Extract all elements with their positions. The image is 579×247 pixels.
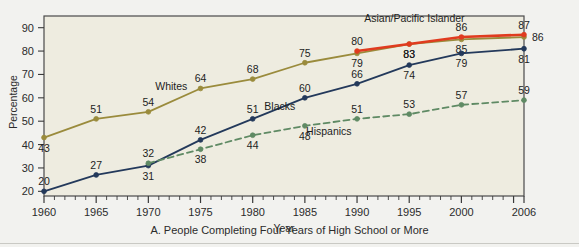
data-point bbox=[522, 32, 527, 37]
data-point-label: 60 bbox=[299, 82, 311, 94]
data-point-label: 20 bbox=[38, 175, 50, 187]
data-point-label: 42 bbox=[195, 124, 207, 136]
data-point-label: 51 bbox=[351, 103, 363, 115]
data-point-label: 59 bbox=[518, 84, 530, 96]
x-tick-label: 1990 bbox=[345, 206, 369, 218]
figure-panel: Percentage 20304050607080901960196519701… bbox=[0, 0, 579, 247]
data-point bbox=[355, 81, 360, 86]
x-tick-label: 1975 bbox=[188, 206, 212, 218]
data-point bbox=[459, 51, 464, 56]
data-point bbox=[94, 116, 99, 121]
data-point-label: 80 bbox=[351, 35, 363, 47]
y-tick-label: 90 bbox=[22, 22, 34, 34]
data-point bbox=[522, 98, 527, 103]
data-point-label: 53 bbox=[403, 98, 415, 110]
data-point bbox=[198, 147, 203, 152]
data-point bbox=[459, 35, 464, 40]
data-point bbox=[250, 133, 255, 138]
data-point-label: 54 bbox=[143, 96, 155, 108]
data-point bbox=[42, 135, 47, 140]
series-label-blacks: Blacks bbox=[264, 100, 295, 112]
line-chart: 2030405060708090196019651970197519801985… bbox=[0, 0, 579, 247]
data-point bbox=[250, 77, 255, 82]
x-tick-label: 1985 bbox=[293, 206, 317, 218]
y-tick-label: 40 bbox=[22, 139, 34, 151]
data-point bbox=[355, 116, 360, 121]
y-tick-label: 60 bbox=[22, 92, 34, 104]
data-point-label: 66 bbox=[351, 68, 363, 80]
x-tick-label: 1980 bbox=[240, 206, 264, 218]
data-point-label: 51 bbox=[90, 103, 102, 115]
data-point-label: 87 bbox=[518, 19, 530, 31]
x-tick-label: 1960 bbox=[32, 206, 56, 218]
y-tick-label: 80 bbox=[22, 45, 34, 57]
figure-caption: A. People Completing Four Years of High … bbox=[0, 224, 579, 236]
data-point-label: 27 bbox=[90, 159, 102, 171]
x-tick-label: 1970 bbox=[136, 206, 160, 218]
x-tick-label: 1995 bbox=[397, 206, 421, 218]
data-point bbox=[198, 86, 203, 91]
bottom-divider bbox=[0, 243, 579, 244]
data-point bbox=[250, 116, 255, 121]
data-point bbox=[42, 189, 47, 194]
y-tick-label: 70 bbox=[22, 68, 34, 80]
data-point-label: 64 bbox=[195, 72, 207, 84]
data-point bbox=[522, 46, 527, 51]
data-point bbox=[198, 137, 203, 142]
series-label-asian-pacific-islander: Asian/Pacific Islander bbox=[364, 12, 465, 24]
data-point-label: 83 bbox=[403, 48, 415, 60]
data-point-label: 51 bbox=[247, 103, 259, 115]
data-point bbox=[355, 49, 360, 54]
data-point bbox=[407, 112, 412, 117]
data-point-label: 57 bbox=[456, 89, 468, 101]
data-point bbox=[407, 42, 412, 47]
series-label-hispanics: Hispanics bbox=[306, 125, 352, 137]
data-point bbox=[407, 63, 412, 68]
y-tick-label: 20 bbox=[22, 185, 34, 197]
data-point-label: 74 bbox=[403, 69, 415, 81]
x-tick-label: 1965 bbox=[84, 206, 108, 218]
data-point-label: 81 bbox=[518, 53, 530, 65]
data-point-label: 75 bbox=[299, 47, 311, 59]
y-tick-label: 50 bbox=[22, 115, 34, 127]
data-point bbox=[146, 161, 151, 166]
data-point-label: 44 bbox=[247, 139, 259, 151]
y-tick-label: 30 bbox=[22, 162, 34, 174]
data-point-label: 86 bbox=[532, 31, 544, 43]
data-point bbox=[459, 102, 464, 107]
data-point bbox=[302, 95, 307, 100]
x-tick-label: 2000 bbox=[449, 206, 473, 218]
data-point bbox=[94, 173, 99, 178]
data-point bbox=[302, 60, 307, 65]
data-point-label: 38 bbox=[195, 153, 207, 165]
data-point-label: 43 bbox=[38, 142, 50, 154]
data-point-label: 32 bbox=[143, 147, 155, 159]
x-tick-label: 2006 bbox=[512, 206, 536, 218]
data-point-label: 79 bbox=[456, 57, 468, 69]
data-point-label: 68 bbox=[247, 63, 259, 75]
data-point bbox=[146, 109, 151, 114]
data-point-label: 31 bbox=[143, 170, 155, 182]
series-label-whites: Whites bbox=[155, 80, 187, 92]
